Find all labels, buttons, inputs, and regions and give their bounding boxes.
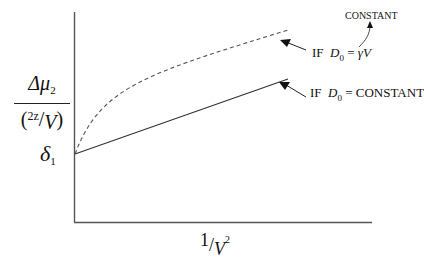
curved-arrow-gamma	[359, 25, 370, 47]
y-label-numerator: Δμ2	[14, 72, 70, 101]
gamma-constant-note: CONSTANT	[345, 10, 398, 21]
arrow-to-dashed	[286, 42, 306, 50]
annotation-d0-constant: IF D0 = CONSTANT	[310, 85, 424, 103]
fraction-bar	[14, 103, 70, 104]
x-axis-label: 1/V2	[200, 230, 230, 260]
arrow-to-solid	[286, 85, 306, 97]
dashed-curve-d0-gamma-v	[75, 30, 288, 154]
arrowhead-gamma-icon	[367, 21, 373, 28]
y-label-denominator: (2z/V)	[14, 105, 70, 133]
y-intercept-label: δ1	[40, 141, 56, 167]
solid-line-d0-constant	[75, 79, 288, 154]
annotation-d0-gamma-v: IF D0 = γV	[312, 45, 371, 63]
y-axis-label: Δμ2 (2z/V)	[14, 72, 70, 133]
